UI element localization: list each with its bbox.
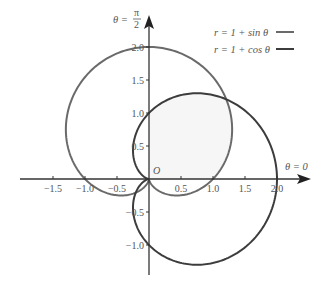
svg-text:r = 1 + cos θ: r = 1 + cos θ xyxy=(214,44,270,55)
x-tick-label: 1.5 xyxy=(239,183,252,194)
y-axis-label: θ = π 2 xyxy=(113,7,141,30)
y-tick-label: 1.0 xyxy=(132,108,145,119)
polar-chart: −1.5−1.0−0.50.51.01.52.0 −1.0−0.50.51.01… xyxy=(0,0,323,289)
x-axis-label: θ = 0 xyxy=(285,161,308,172)
y-tick-label: 0.5 xyxy=(132,141,145,152)
x-tick-label: 0.5 xyxy=(175,183,188,194)
y-tick-label: −0.5 xyxy=(126,207,144,218)
legend-item-sin: r = 1 + sin θ xyxy=(214,27,294,38)
legend-item-cos: r = 1 + cos θ xyxy=(214,44,294,55)
x-tick-label: −1.0 xyxy=(76,183,94,194)
x-tick-label: 2.0 xyxy=(271,183,284,194)
svg-text:π: π xyxy=(134,7,139,18)
svg-text:θ =: θ = xyxy=(113,14,128,25)
svg-text:2: 2 xyxy=(134,19,139,30)
y-ticks: −1.0−0.50.51.01.52.0 xyxy=(126,42,149,251)
svg-text:r = 1 + sin θ: r = 1 + sin θ xyxy=(214,27,268,38)
x-tick-label: 1.0 xyxy=(207,183,220,194)
x-tick-label: −1.5 xyxy=(44,183,62,194)
legend: r = 1 + sin θ r = 1 + cos θ xyxy=(214,27,294,55)
x-tick-label: −0.5 xyxy=(108,183,126,194)
y-tick-label: 2.0 xyxy=(132,42,145,53)
origin-label: O xyxy=(153,165,160,176)
shaded-overlap-region xyxy=(149,93,232,179)
y-tick-label: 1.5 xyxy=(132,75,145,86)
y-tick-label: −1.0 xyxy=(126,240,144,251)
